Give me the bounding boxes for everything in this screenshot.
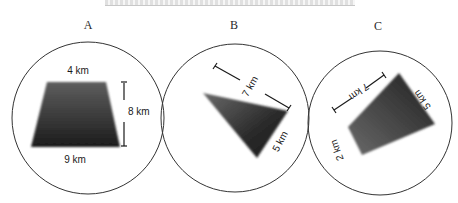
panel-b: 7 km 5 km [161,44,309,192]
dim-a-height: 8 km [128,106,150,117]
panel-a: 4 km 8 km 9 km [12,42,164,194]
trapezoid-a [31,82,120,147]
height-arrow-a [121,82,127,146]
dim-a-bottom: 9 km [64,154,86,165]
dim-a-top: 4 km [67,65,89,76]
dim-b-long: 7 km [240,74,260,98]
shapes-diagram: 4 km 8 km 9 km 7 km 5 km 7 km 5 km 2 km [0,0,458,203]
panel-c: 7 km 5 km 2 km [308,51,452,195]
dim-c-left: 2 km [328,138,346,162]
